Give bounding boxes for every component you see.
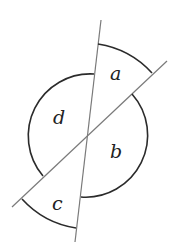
label-angle-d: d [53,106,65,128]
label-angle-b: b [110,140,122,162]
label-angle-a: a [110,62,121,84]
line-diagonal [12,61,167,207]
label-angle-c: c [52,192,63,214]
line-steep [75,20,101,242]
arc-angle-c [22,199,76,228]
angle-diagram: a b c d [0,0,176,244]
arc-angle-a [98,44,152,73]
